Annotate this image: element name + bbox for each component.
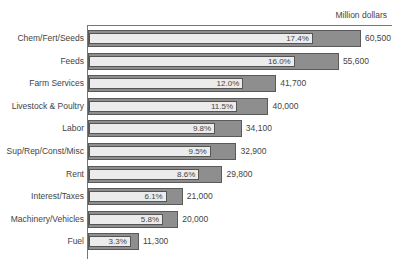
- category-label: Feeds: [0, 53, 84, 70]
- percent-label: 6.1%: [89, 191, 167, 202]
- percent-label: 9.5%: [89, 146, 211, 157]
- category-label: Interest/Taxes: [0, 188, 84, 205]
- bar-row: Livestock & Poultry11.5%40,000: [0, 98, 403, 115]
- value-label: 32,900: [240, 143, 266, 160]
- bar-row: Chem/Fert/Seeds17.4%60,500: [0, 30, 403, 47]
- percent-label: 3.3%: [89, 236, 131, 247]
- bar: 11.5%: [88, 98, 268, 115]
- percent-label: 17.4%: [89, 33, 313, 44]
- percent-label: 16.0%: [89, 56, 295, 67]
- bar: 9.5%: [88, 143, 236, 160]
- value-label: 41,700: [280, 75, 306, 92]
- value-label: 29,800: [226, 166, 252, 183]
- percent-label: 8.6%: [89, 169, 199, 180]
- category-label: Fuel: [0, 233, 84, 250]
- percent-label: 9.8%: [89, 123, 215, 134]
- category-label: Machinery/Vehicles: [0, 211, 84, 228]
- bar: 17.4%: [88, 30, 361, 47]
- category-label: Farm Services: [0, 75, 84, 92]
- category-label: Sup/Rep/Const/Misc: [0, 143, 84, 160]
- bar-row: Machinery/Vehicles5.8%20,000: [0, 211, 403, 228]
- bar-row: Farm Services12.0%41,700: [0, 75, 403, 92]
- bar: 9.8%: [88, 120, 242, 137]
- bar: 5.8%: [88, 211, 178, 228]
- category-label: Livestock & Poultry: [0, 98, 84, 115]
- bar-row: Interest/Taxes6.1%21,000: [0, 188, 403, 205]
- bar-row: Fuel3.3%11,300: [0, 233, 403, 250]
- value-label: 21,000: [187, 188, 213, 205]
- value-label: 60,500: [365, 30, 391, 47]
- bar-row: Feeds16.0%55,600: [0, 53, 403, 70]
- value-label: 40,000: [272, 98, 298, 115]
- bar: 16.0%: [88, 53, 339, 70]
- bar: 6.1%: [88, 188, 183, 205]
- unit-label: Million dollars: [336, 10, 388, 20]
- category-label: Rent: [0, 166, 84, 183]
- value-label: 34,100: [246, 120, 272, 137]
- bar-row: Rent8.6%29,800: [0, 166, 403, 183]
- category-label: Labor: [0, 120, 84, 137]
- percent-label: 11.5%: [89, 101, 237, 112]
- top-rule: [87, 25, 392, 26]
- percent-label: 12.0%: [89, 78, 243, 89]
- bar: 3.3%: [88, 233, 139, 250]
- bar: 8.6%: [88, 166, 222, 183]
- value-label: 11,300: [143, 233, 168, 250]
- value-label: 55,600: [343, 53, 369, 70]
- bar-row: Sup/Rep/Const/Misc9.5%32,900: [0, 143, 403, 160]
- bar-row: Labor9.8%34,100: [0, 120, 403, 137]
- category-label: Chem/Fert/Seeds: [0, 30, 84, 47]
- percent-label: 5.8%: [89, 214, 163, 225]
- value-label: 20,000: [182, 211, 208, 228]
- bar: 12.0%: [88, 75, 276, 92]
